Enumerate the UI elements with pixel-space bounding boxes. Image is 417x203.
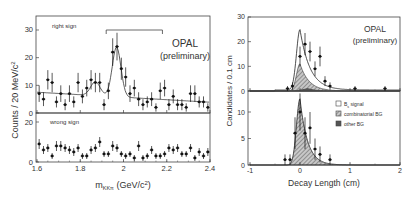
- opal-figure: 1.61.822.22.40102030020 right sign wrong…: [0, 0, 417, 203]
- wrong-sign-point-marker: [90, 149, 93, 152]
- wrong-sign-point-marker: [155, 155, 158, 158]
- signal-point-marker: [354, 87, 357, 90]
- opal-label-right: OPAL: [364, 24, 386, 34]
- right-sign-point-marker: [68, 92, 71, 95]
- y-tick-label: 10: [237, 109, 245, 116]
- wrong-sign-point-marker: [129, 153, 132, 156]
- signal-point-marker: [384, 87, 387, 90]
- combinatorial-bg-swatch: [336, 111, 341, 116]
- wrong-sign-point-marker: [81, 155, 84, 158]
- x-tick-label: 2: [398, 167, 402, 174]
- right-sign-point-marker: [168, 103, 171, 106]
- wrong-sign-point-marker: [133, 157, 136, 160]
- signal-point-marker: [286, 87, 289, 90]
- right-sign-point-marker: [172, 95, 175, 98]
- wrong-sign-point-marker: [77, 147, 80, 150]
- wrong-sign-point-marker: [120, 153, 123, 156]
- right-sign-point-marker: [77, 81, 80, 84]
- wrong-sign-point-marker: [55, 145, 58, 148]
- signal-point-marker: [299, 55, 302, 58]
- left-lower-data-points: [37, 137, 209, 161]
- y-tick-label: 20: [25, 53, 33, 62]
- right-x-axis-label: Decay Length (cm): [288, 178, 360, 188]
- right-sign-point-marker: [98, 81, 101, 84]
- x-tick-label: 0: [298, 167, 302, 174]
- right-lower-frame: [248, 91, 400, 165]
- bs-signal-swatch: [336, 101, 341, 106]
- x-tick-label: -1: [247, 167, 253, 174]
- y-tick-label: 10: [237, 63, 245, 70]
- sideband-point-marker: [329, 158, 332, 161]
- y-tick-label: 30: [25, 25, 33, 34]
- bs-signal-label: Bs signal: [344, 101, 364, 109]
- sideband-point-marker: [304, 132, 307, 135]
- x-tick-label: 1.6: [32, 164, 42, 173]
- sideband-point-marker: [289, 158, 292, 161]
- left-upper-frame: [36, 16, 210, 113]
- left-x-axis-label: mKKπ (GeV/c2): [95, 180, 151, 191]
- sideband-point-marker: [299, 111, 302, 114]
- wrong-sign-point-marker: [116, 147, 119, 150]
- wrong-sign-point-marker: [206, 151, 209, 154]
- signal-point-marker: [309, 50, 312, 53]
- wrong-sign-point-marker: [168, 147, 171, 150]
- right-sign-point-marker: [107, 89, 110, 92]
- wrong-sign-point-marker: [42, 149, 45, 152]
- sideband-point-marker: [294, 132, 297, 135]
- wrong-sign-point-marker: [202, 155, 205, 158]
- right-y-axis-label: Candidates / 0.1 cm: [225, 55, 234, 126]
- right-sign-point-marker: [142, 103, 145, 106]
- x-tick-label: 2.2: [162, 164, 172, 173]
- legend-item-other-bg: other BG: [336, 121, 364, 127]
- right-sign-point-marker: [189, 92, 192, 95]
- right-sign-point-marker: [176, 103, 179, 106]
- right-sign-point-marker: [85, 87, 88, 90]
- right-sign-point-marker: [81, 95, 84, 98]
- wrong-sign-point-marker: [150, 149, 153, 152]
- wrong-sign-point-marker: [103, 153, 106, 156]
- x-tick-label: 2.4: [205, 164, 215, 173]
- preliminary-label-right: (preliminary): [353, 36, 398, 45]
- y-tick-label: 0: [29, 109, 33, 118]
- right-sign-point-marker: [155, 106, 158, 109]
- y-tick-label: 0: [241, 88, 245, 95]
- y-tick-label: 5: [241, 135, 245, 142]
- right-sign-point-marker: [129, 92, 132, 95]
- right-sign-point-marker: [124, 76, 127, 79]
- wrong-sign-point-marker: [163, 153, 166, 156]
- x-tick-label: 2: [121, 164, 125, 173]
- right-sign-point-marker: [193, 92, 196, 95]
- other-bg-label: other BG: [344, 121, 364, 127]
- right-sign-point-marker: [103, 103, 106, 106]
- wrong-sign-point-marker: [51, 155, 54, 158]
- wrong-sign-point-marker: [193, 157, 196, 160]
- wrong-sign-point-marker: [185, 153, 188, 156]
- right-sign-point-marker: [202, 101, 205, 104]
- right-sign-point-marker: [146, 101, 149, 104]
- wrong-sign-point-marker: [189, 147, 192, 150]
- right-sign-point-marker: [38, 92, 41, 95]
- wrong-sign-point-marker: [98, 141, 101, 144]
- right-sign-point-marker: [198, 101, 201, 104]
- left-y-axis-label: Counts / 20 MeV/c2: [10, 61, 20, 139]
- right-sign-point-marker: [163, 87, 166, 90]
- right-sign-point-marker: [111, 51, 114, 54]
- wrong-sign-point-marker: [142, 157, 145, 160]
- right-sign-point-marker: [116, 45, 119, 48]
- wrong-sign-point-marker: [72, 151, 75, 154]
- wrong-sign-point-marker: [94, 147, 97, 150]
- x-tick-label: 1.8: [75, 164, 85, 173]
- wrong-sign-point-marker: [159, 155, 162, 158]
- sideband-point-marker: [319, 153, 322, 156]
- wrong-sign-point-marker: [180, 153, 183, 156]
- wrong-sign-point-marker: [176, 147, 179, 150]
- sideband-point-marker: [284, 158, 287, 161]
- y-tick-label: 30: [237, 13, 245, 20]
- right-sign-point-marker: [42, 98, 45, 101]
- right-sign-point-marker: [137, 98, 140, 101]
- left-chart: 1.61.822.22.40102030020 right sign wrong…: [10, 16, 215, 191]
- right-sign-point-marker: [64, 103, 67, 106]
- preliminary-label-left: (preliminary): [160, 51, 210, 61]
- wrong-sign-point-marker: [146, 155, 149, 158]
- wrong-sign-point-marker: [137, 145, 140, 148]
